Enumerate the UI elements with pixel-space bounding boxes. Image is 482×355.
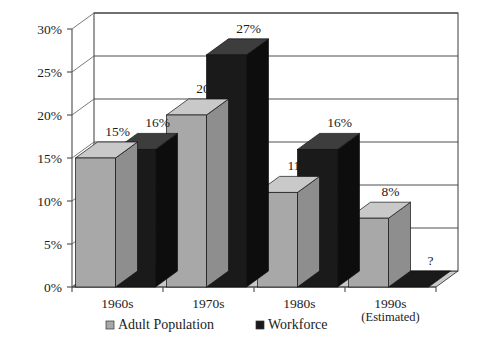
y-axis-tick-label: 20% (37, 108, 62, 123)
x-axis-category-label: 1960s (101, 296, 133, 311)
y-axis-tick-label: 15% (37, 151, 62, 166)
bar-value-label: 8% (382, 184, 400, 199)
bar-side-face (156, 133, 178, 287)
y-axis-tick-label: 25% (37, 65, 62, 80)
depth-connector (72, 99, 94, 115)
legend-item-label: Workforce (268, 317, 328, 332)
gray-square-marker-icon (106, 321, 114, 329)
y-axis-tick-labels: 0%5%10%15%20%25%30% (37, 22, 62, 295)
bar-chart: 0%5%10%15%20%25%30%?8%16%11%27%20%16%15%… (0, 0, 482, 355)
bar-value-label: 27% (236, 21, 261, 36)
bar-side-face (207, 99, 229, 287)
bar-side-face (338, 133, 360, 287)
bar-front-face (76, 158, 116, 287)
x-axis-category-label: 1990s (374, 296, 406, 311)
bar-side-face (116, 142, 138, 287)
x-axis-category-sublabel: (Estimated) (361, 310, 419, 324)
bar-value-label: 11% (287, 158, 311, 173)
bar-value-label: ? (428, 253, 434, 268)
chart-canvas: 0%5%10%15%20%25%30%?8%16%11%27%20%16%15%… (0, 0, 482, 355)
bar-value-label: 15% (105, 124, 130, 139)
bar-adult-population (76, 142, 138, 287)
bar-value-label: 16% (327, 115, 352, 130)
black-square-marker-icon (256, 321, 264, 329)
bar-value-label: 20% (196, 81, 221, 96)
y-axis-tick-label: 30% (37, 22, 62, 37)
x-axis-category-label: 1980s (283, 296, 315, 311)
bar-side-face (247, 39, 269, 287)
y-axis-tick-label: 0% (44, 280, 62, 295)
legend-item: Workforce (256, 317, 328, 332)
x-axis-category-label: 1970s (192, 296, 224, 311)
y-axis-tick-label: 10% (37, 194, 62, 209)
legend-item: Adult Population (106, 317, 214, 332)
depth-connector (72, 56, 94, 72)
bar-value-label: 16% (145, 115, 170, 130)
y-axis-tick-label: 5% (44, 237, 62, 252)
bar-side-face (298, 176, 320, 287)
depth-connector (72, 13, 94, 29)
legend: Adult PopulationWorkforce (106, 317, 328, 332)
legend-item-label: Adult Population (118, 317, 214, 332)
